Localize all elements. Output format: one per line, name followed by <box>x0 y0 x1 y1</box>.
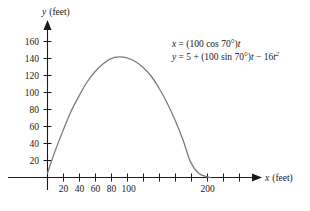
y-tick-label-40: 40 <box>30 139 40 149</box>
x-axis-arrow-icon <box>252 174 262 182</box>
x-tick-label-40: 40 <box>75 184 85 194</box>
x-tick-label-200: 200 <box>200 184 215 194</box>
eq-x-angle: 70°) <box>219 39 238 49</box>
y-tick-label-100: 100 <box>25 88 40 98</box>
x-axis-title-unit: (feet) <box>272 173 293 184</box>
eq-x-operator: = (100 <box>176 39 206 49</box>
equation-line-x: x = (100 cos 70°)t <box>172 38 279 51</box>
y-tick-label-60: 60 <box>30 122 40 132</box>
eq-x-t-var: t <box>238 39 241 49</box>
y-axis-title-unit: (feet) <box>49 7 70 18</box>
eq-x-cos-fn: cos <box>206 39 219 49</box>
y-axis-title-var: y <box>41 7 47 17</box>
y-tick-label-80: 80 <box>30 105 40 115</box>
y-tick-label-160: 160 <box>25 37 40 47</box>
x-tick-label-20: 20 <box>59 184 69 194</box>
eq-y-sin-fn: sin <box>221 52 232 62</box>
eq-y-angle: 70°) <box>232 52 251 62</box>
parametric-equations-annotation: x = (100 cos 70°)t y = 5 + (100 sin 70°)… <box>172 38 279 64</box>
x-axis-title-var: x <box>264 173 270 183</box>
y-tick-label-120: 120 <box>25 71 40 81</box>
x-tick-label-100: 100 <box>121 184 136 194</box>
y-tick-label-20: 20 <box>30 156 40 166</box>
trajectory-curve <box>48 57 211 178</box>
x-axis-title: x(feet) <box>264 173 293 184</box>
eq-y-exponent: 2 <box>276 50 279 57</box>
y-axis-title: y(feet) <box>41 7 70 18</box>
projectile-trajectory-plot: 20 40 60 80 100 120 140 160 20 40 60 80 … <box>0 0 310 211</box>
eq-y-operator: = 5 + (100 <box>176 52 221 62</box>
x-tick-label-60: 60 <box>91 184 101 194</box>
equation-line-y: y = 5 + (100 sin 70°)t − 16t2 <box>172 51 279 64</box>
chart-figure: 20 40 60 80 100 120 140 160 20 40 60 80 … <box>0 0 310 211</box>
y-tick-label-140: 140 <box>25 54 40 64</box>
x-tick-label-80: 80 <box>107 184 117 194</box>
y-axis-arrow-icon <box>44 20 52 30</box>
eq-y-tail: − 16 <box>254 52 274 62</box>
